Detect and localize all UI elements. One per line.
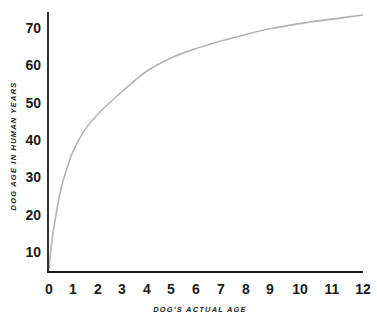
x-tick-label: 0 xyxy=(45,281,53,297)
x-tick-label: 4 xyxy=(143,281,151,297)
y-tick-label: 50 xyxy=(25,95,41,111)
y-axis-tick-labels: 10203040506070 xyxy=(25,20,41,260)
x-tick-label: 1 xyxy=(69,281,77,297)
x-tick-label: 12 xyxy=(355,281,371,297)
x-tick-label: 11 xyxy=(325,281,340,297)
x-tick-label: 6 xyxy=(192,281,200,297)
y-tick-label: 10 xyxy=(25,244,41,260)
x-tick-label: 9 xyxy=(266,281,274,297)
x-axis-tick-labels: 0123456789101112 xyxy=(45,281,371,297)
y-tick-label: 70 xyxy=(25,20,41,36)
y-tick-label: 60 xyxy=(25,57,41,73)
y-tick-label: 40 xyxy=(25,132,41,148)
x-tick-label: 8 xyxy=(242,281,250,297)
dog-age-chart: 10203040506070 0123456789101112 DOG'S AC… xyxy=(0,0,377,323)
x-tick-label: 3 xyxy=(118,281,126,297)
x-tick-label: 10 xyxy=(292,281,308,297)
x-tick-label: 7 xyxy=(217,281,225,297)
age-curve-line xyxy=(49,15,363,269)
y-tick-label: 30 xyxy=(25,169,41,185)
x-tick-label: 5 xyxy=(167,281,175,297)
x-tick-label: 2 xyxy=(94,281,102,297)
y-axis-title: DOG AGE IN HUMAN YEARS xyxy=(9,82,18,211)
y-tick-label: 20 xyxy=(25,207,41,223)
x-axis-title: DOG'S ACTUAL AGE xyxy=(153,305,247,314)
